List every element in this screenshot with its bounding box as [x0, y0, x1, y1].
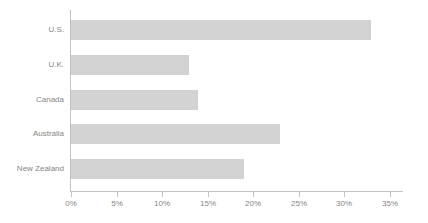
x-axis-tick: [71, 192, 72, 197]
x-axis-tick: [162, 192, 163, 197]
bar: [71, 90, 198, 110]
x-axis-tick: [390, 192, 391, 197]
x-axis-tick: [344, 192, 345, 197]
x-axis-tick-label: 0%: [51, 199, 91, 209]
x-axis-tick: [208, 192, 209, 197]
x-axis-tick: [117, 192, 118, 197]
category-label: New Zealand: [0, 164, 64, 174]
x-axis-tick-label: 10%: [142, 199, 182, 209]
x-axis-tick-label: 30%: [324, 199, 364, 209]
bar: [71, 159, 244, 179]
category-label: U.S.: [0, 25, 64, 35]
x-axis-tick: [253, 192, 254, 197]
bar: [71, 20, 371, 40]
x-axis-tick-label: 5%: [97, 199, 137, 209]
bar-chart: U.S.U.K.CanadaAustraliaNew Zealand 0%5%1…: [0, 0, 428, 223]
bar: [71, 124, 280, 144]
bar: [71, 55, 189, 75]
category-label: Canada: [0, 95, 64, 105]
x-axis-tick-label: 25%: [279, 199, 319, 209]
x-axis-tick-label: 35%: [370, 199, 410, 209]
x-axis-tick: [299, 192, 300, 197]
x-axis-line: [70, 191, 403, 192]
category-label: Australia: [0, 129, 64, 139]
category-label: U.K.: [0, 60, 64, 70]
x-axis-tick-label: 20%: [233, 199, 273, 209]
x-axis-tick-label: 15%: [188, 199, 228, 209]
